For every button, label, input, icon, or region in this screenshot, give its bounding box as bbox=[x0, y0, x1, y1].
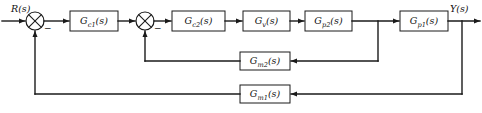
block-gc1-sub: c1 bbox=[88, 21, 96, 29]
block-gc1-label: Gc1(s) bbox=[70, 16, 118, 28]
block-gc2-arg: (s) bbox=[200, 15, 212, 26]
block-diagram: R(s) Y(s) − − Gc1(s) Gc2(s) Gv(s) Gp2(s)… bbox=[0, 0, 482, 113]
block-gc1-arg: (s) bbox=[96, 15, 108, 26]
block-gm2-arg: (s) bbox=[268, 55, 280, 66]
block-gp2-base: G bbox=[314, 15, 322, 26]
block-gc1-base: G bbox=[80, 15, 88, 26]
block-gm2-label: Gm2(s) bbox=[240, 56, 290, 68]
summer-1-sign: − bbox=[44, 24, 52, 33]
block-gm1-arg: (s) bbox=[268, 88, 280, 99]
block-gp1-label: Gp1(s) bbox=[400, 16, 448, 28]
block-gm2-sub: m2 bbox=[257, 61, 267, 69]
block-gp2-arg: (s) bbox=[330, 15, 342, 26]
block-gp1-arg: (s) bbox=[426, 15, 438, 26]
block-gc2-label: Gc2(s) bbox=[172, 16, 225, 28]
block-gp1-sub: p1 bbox=[417, 21, 425, 29]
block-gp2-label: Gp2(s) bbox=[305, 16, 352, 28]
block-gv-label: Gv(s) bbox=[243, 16, 290, 28]
summer-2-sign: − bbox=[154, 24, 162, 33]
block-gc2-sub: c2 bbox=[192, 21, 200, 29]
block-gv-arg: (s) bbox=[266, 15, 278, 26]
block-gm1-label: Gm1(s) bbox=[240, 89, 290, 101]
output-signal-label: Y(s) bbox=[450, 4, 469, 14]
input-signal-label: R(s) bbox=[11, 4, 30, 14]
block-gm1-sub: m1 bbox=[257, 94, 267, 102]
